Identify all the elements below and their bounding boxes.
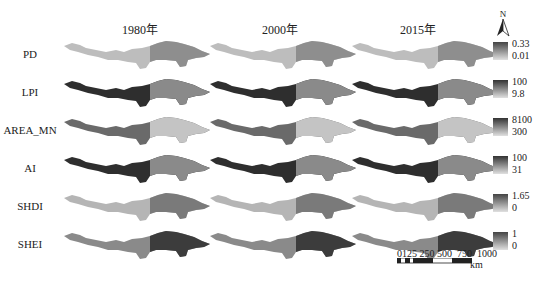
row-label: SHEI — [0, 238, 60, 250]
map-panel — [62, 76, 212, 112]
legend-max: 0.33 — [512, 39, 530, 49]
legend-max: 1 — [512, 229, 517, 239]
legend-min: 0.01 — [512, 51, 530, 61]
legend-max: 100 — [512, 153, 527, 163]
row-label: LPI — [0, 86, 60, 98]
map-panel — [208, 190, 358, 226]
column-title: 2015年 — [358, 20, 478, 38]
map-panel — [208, 114, 358, 150]
map-panel — [208, 228, 358, 264]
map-panel — [208, 76, 358, 112]
map-panel — [62, 114, 212, 150]
map-panel — [62, 152, 212, 188]
map-panel — [350, 152, 500, 188]
scale-bar — [397, 258, 472, 264]
scale-unit: km — [470, 259, 483, 270]
map-panel — [208, 152, 358, 188]
north-arrow-icon: N — [495, 8, 511, 40]
map-panel — [62, 228, 212, 264]
legend-color-ramp — [493, 156, 508, 174]
legend-min: 31 — [512, 165, 522, 175]
row-label: AREA_MN — [0, 124, 60, 136]
scale-tick: 1000 — [477, 248, 497, 259]
legend-min: 300 — [512, 127, 527, 137]
legend-color-ramp — [493, 80, 508, 98]
map-panel — [350, 190, 500, 226]
map-panel — [350, 38, 500, 74]
row-label: AI — [0, 162, 60, 174]
legend-color-ramp — [493, 118, 508, 136]
column-title: 2000年 — [220, 20, 340, 38]
legend-color-ramp — [493, 194, 508, 212]
row-label: SHDI — [0, 200, 60, 212]
map-panel — [62, 38, 212, 74]
legend-min: 9.8 — [512, 89, 525, 99]
north-label: N — [500, 9, 507, 19]
legend-max: 8100 — [512, 115, 532, 125]
map-panel — [350, 76, 500, 112]
legend-max: 1.65 — [512, 191, 530, 201]
row-label: PD — [0, 48, 60, 60]
column-title: 1980年 — [80, 20, 200, 38]
legend-min: 0 — [512, 241, 517, 251]
legend-color-ramp — [493, 42, 508, 60]
map-panel — [62, 190, 212, 226]
legend-min: 0 — [512, 203, 517, 213]
map-panel — [208, 38, 358, 74]
map-panel — [350, 114, 500, 150]
legend-max: 100 — [512, 77, 527, 87]
